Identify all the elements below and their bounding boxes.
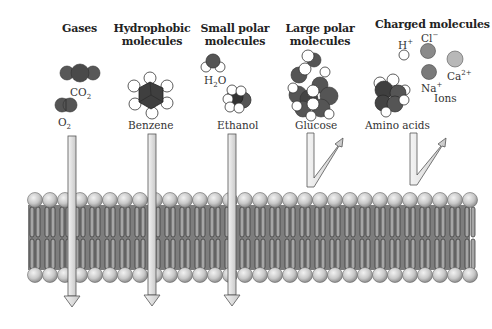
lipid-bilayer [28,193,478,283]
ion-cl-minus-icon [421,44,436,59]
amino-acid-molecule-icon [374,74,410,117]
heading-small-polar: Small polar molecules [200,22,270,48]
membrane-permeability-diagram [0,0,492,329]
co2-molecule-icon [60,64,100,82]
heading-small-polar-line2: molecules [200,35,270,48]
h2o-molecule-icon [201,54,225,72]
ion-na-plus-icon [422,65,437,80]
heading-gases: Gases [52,22,107,35]
label-amino-acids: Amino acids [365,119,430,131]
label-benzene: Benzene [128,119,173,131]
heading-small-polar-line1: Small polar [200,22,270,35]
ion-ca-icon [447,51,463,67]
heading-hydrophobic: Hydrophobic molecules [110,22,194,48]
label-ca: Ca2+ [447,69,472,82]
label-ethanol: Ethanol [217,119,258,131]
glucose-molecule-icon [288,50,338,121]
heading-large-polar-line1: Large polar [285,22,355,35]
heading-large-polar: Large polar molecules [285,22,355,48]
label-o2: O2 [58,116,71,131]
label-cl-minus: Cl− [421,31,438,44]
ethanol-molecule-icon [223,85,251,113]
heading-large-polar-line2: molecules [285,35,355,48]
heading-hydrophobic-line1: Hydrophobic [110,22,194,35]
arrow-large-polar-blocked [307,133,343,187]
ion-h-plus-icon [399,50,409,60]
label-co2: CO2 [70,86,91,101]
label-ions: Ions [434,92,457,104]
benzene-molecule-icon [128,72,173,119]
label-glucose: Glucose [295,119,337,131]
label-h2o: H2O [204,74,226,89]
heading-hydrophobic-line2: molecules [110,35,194,48]
label-h-plus: H+ [398,38,413,51]
arrow-charged-blocked [410,133,446,185]
heading-charged: Charged molecules [375,18,485,31]
